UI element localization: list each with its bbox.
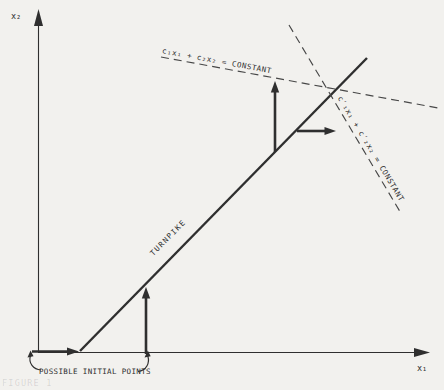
figure-caption: FIGURE 1: [2, 377, 53, 390]
x-axis-label: x₁: [417, 362, 427, 375]
exit-arrow-horizontal-head-icon: [325, 127, 337, 135]
turnpike-line: [80, 58, 367, 351]
y-axis-arrowhead-icon: [34, 9, 43, 26]
y-axis-label: x₂: [11, 10, 21, 23]
initial-point-arrow-vertical-head-icon: [142, 287, 150, 299]
exit-arrow-vertical-head-icon: [271, 81, 279, 93]
x-axis-arrowhead-icon: [414, 348, 430, 357]
initial-point-arrow-horizontal-head-icon: [67, 348, 79, 356]
initial-points-label: POSSIBLE INITIAL POINTS: [39, 365, 151, 378]
